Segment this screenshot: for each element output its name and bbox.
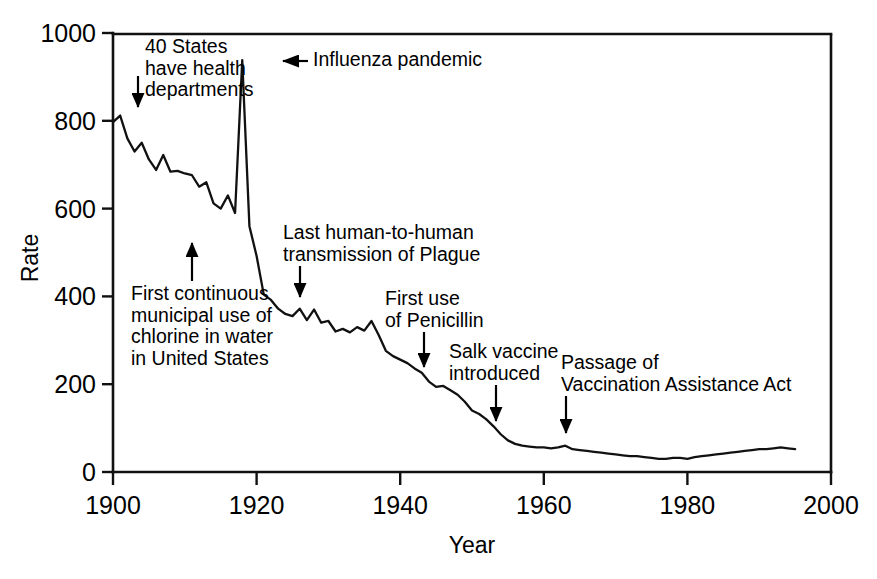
x-tick-label: 1900 <box>85 491 141 519</box>
x-axis-ticks <box>113 472 831 485</box>
y-tick-label: 200 <box>54 370 96 398</box>
y-tick-label: 1000 <box>40 19 96 47</box>
y-tick-label: 400 <box>54 282 96 310</box>
y-tick-label: 0 <box>82 458 96 486</box>
x-tick-label: 1940 <box>372 491 428 519</box>
annotation-label-forty-states: 40 States have health departments <box>145 36 253 101</box>
y-tick-label: 600 <box>54 195 96 223</box>
y-axis-ticks <box>102 33 113 472</box>
x-axis-title: Year <box>449 532 496 558</box>
annotation-label-salk-vaccine: Salk vaccine introduced <box>449 341 558 384</box>
chart-container: 02004006008001000 1900192019401960198020… <box>0 0 877 579</box>
annotation-label-first-penicillin: First use of Penicillin <box>385 288 484 331</box>
annotation-label-plague-transmission: Last human-to-human transmission of Plag… <box>283 222 480 265</box>
y-axis-tick-labels: 02004006008001000 <box>40 19 96 486</box>
y-axis-title: Rate <box>17 234 43 283</box>
x-tick-label: 1960 <box>516 491 572 519</box>
x-tick-label: 2000 <box>803 491 859 519</box>
y-tick-label: 800 <box>54 107 96 135</box>
x-tick-label: 1980 <box>660 491 716 519</box>
annotation-label-influenza-pandemic: Influenza pandemic <box>313 49 482 71</box>
annotation-label-chlorine-water: First continuous municipal use of chlori… <box>131 283 273 369</box>
x-tick-label: 1920 <box>229 491 285 519</box>
annotation-label-vaccination-assistance-act: Passage of Vaccination Assistance Act <box>561 352 792 395</box>
x-axis-tick-labels: 190019201940196019802000 <box>85 491 859 519</box>
